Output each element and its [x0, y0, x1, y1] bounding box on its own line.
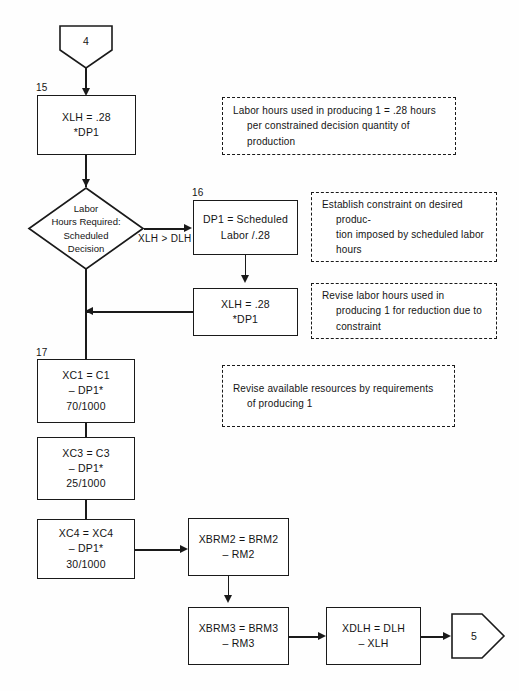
process-box-xc4[interactable]: XC4 = XC4 – DP1* 30/1000 — [37, 519, 135, 579]
process-box-xlh-revised[interactable]: XLH = .28 *DP1 — [193, 288, 298, 336]
connector-line — [85, 269, 87, 367]
annotation-box-revise-resources-text: Revise available resources by requiremen… — [237, 381, 454, 411]
process-box-xbrm3[interactable]: XBRM3 = BRM3 – RM3 — [188, 607, 289, 665]
process-box-xdlh-text: XDLH = DLH – XLH — [342, 621, 405, 651]
arrowhead-icon — [184, 224, 192, 232]
process-box-xc1-text: XC1 = C1 – DP1* 70/1000 — [62, 368, 109, 414]
annotation-box-establish-constraint-text: Establish constraint on desired produc- … — [326, 197, 496, 258]
connector-terminal-5[interactable]: 5 — [450, 612, 506, 660]
annotation-box-establish-constraint: Establish constraint on desired produc- … — [311, 192, 497, 262]
process-box-xbrm2-text: XBRM2 = BRM2 – RM2 — [199, 532, 279, 562]
annotation-box-revise-resources: Revise available resources by requiremen… — [222, 365, 455, 427]
connector-terminal-4[interactable]: 4 — [58, 24, 114, 70]
process-box-dp1-scheduled-text: DP1 = Scheduled Labor /.28 — [203, 212, 288, 242]
process-box-xlh-initial-text: XLH = .28 *DP1 — [62, 110, 111, 140]
process-box-xc3-text: XC3 = C3 – DP1* 25/1000 — [62, 446, 109, 492]
process-box-xlh-revised-text: XLH = .28 *DP1 — [221, 297, 270, 327]
branch-label-xlh-gt-dlh: XLH > DLH — [138, 233, 192, 244]
annotation-box-labor-hours: Labor hours used in producing 1 = .28 ho… — [222, 97, 456, 155]
step-number-16: 16 — [192, 187, 204, 198]
step-number-15: 15 — [36, 82, 48, 93]
annotation-box-revise-labor-hours: Revise labor hours used in producing 1 f… — [311, 283, 497, 339]
process-box-dp1-scheduled[interactable]: DP1 = Scheduled Labor /.28 — [193, 200, 298, 255]
arrowhead-icon — [241, 275, 249, 283]
connector-line — [135, 549, 183, 551]
decision-diamond-labor-hours[interactable]: Labor Hours Required: Scheduled Decision — [27, 186, 145, 271]
flowchart-canvas: 4 15 XLH = .28 *DP1 Labor Hours Required… — [0, 0, 519, 691]
process-box-xc3[interactable]: XC3 = C3 – DP1* 25/1000 — [37, 437, 135, 500]
process-box-xbrm3-text: XBRM3 = BRM3 – RM3 — [199, 621, 279, 651]
connector-line — [86, 311, 194, 313]
decision-diamond-label: Labor Hours Required: Scheduled Decision — [27, 186, 145, 271]
arrowhead-icon — [318, 632, 326, 640]
process-box-xc1[interactable]: XC1 = C1 – DP1* 70/1000 — [37, 359, 135, 423]
process-box-xc4-text: XC4 = XC4 – DP1* 30/1000 — [59, 526, 114, 572]
annotation-box-revise-labor-hours-text: Revise labor hours used in producing 1 f… — [326, 288, 496, 334]
process-box-xdlh[interactable]: XDLH = DLH – XLH — [326, 607, 421, 665]
arrowhead-icon — [180, 545, 188, 553]
connector-line — [289, 636, 321, 638]
annotation-box-labor-hours-text: Labor hours used in producing 1 = .28 ho… — [237, 103, 455, 149]
step-number-17: 17 — [36, 347, 48, 358]
connector-4-label: 4 — [58, 24, 114, 70]
process-box-xlh-initial[interactable]: XLH = .28 *DP1 — [37, 95, 136, 155]
connector-line — [144, 228, 186, 230]
connector-5-label: 5 — [450, 612, 506, 660]
arrowhead-icon — [224, 595, 232, 603]
process-box-xbrm2[interactable]: XBRM2 = BRM2 – RM2 — [188, 518, 289, 576]
